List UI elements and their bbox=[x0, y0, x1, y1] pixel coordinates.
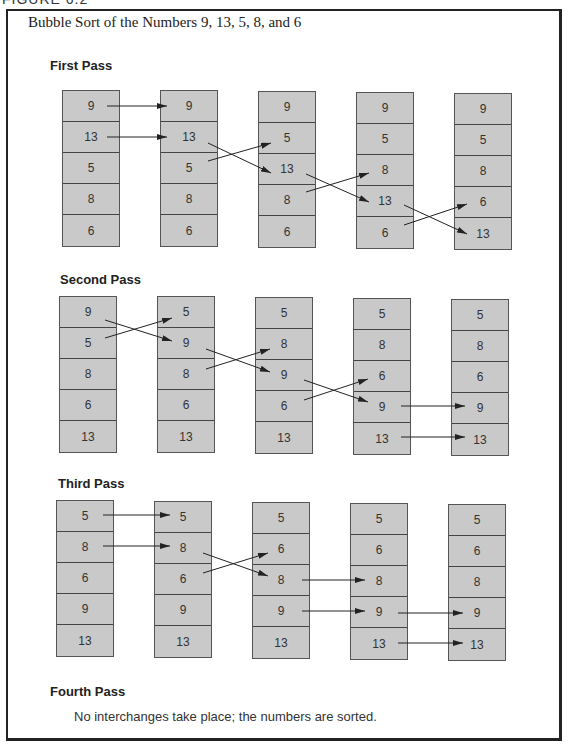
cell: 9 bbox=[253, 596, 309, 627]
pass3-col4: 5 6 8 9 13 bbox=[350, 503, 408, 660]
cell: 13 bbox=[158, 421, 214, 452]
pass-title-third: Third Pass bbox=[58, 476, 124, 491]
cell: 13 bbox=[351, 628, 407, 659]
cell: 9 bbox=[63, 91, 119, 122]
cell: 8 bbox=[161, 184, 217, 215]
figure-label: FIGURE 6.2 bbox=[2, 0, 88, 7]
cell: 13 bbox=[449, 629, 505, 660]
cell: 5 bbox=[259, 123, 315, 154]
cell: 6 bbox=[155, 564, 211, 595]
cell: 6 bbox=[256, 391, 312, 422]
pass3-col2: 5 8 6 9 13 bbox=[154, 501, 212, 658]
cell: 13 bbox=[354, 423, 410, 454]
cell: 9 bbox=[449, 598, 505, 629]
cell: 6 bbox=[449, 536, 505, 567]
cell: 6 bbox=[259, 216, 315, 247]
cell: 5 bbox=[357, 124, 413, 155]
cell: 8 bbox=[60, 359, 116, 390]
cell: 5 bbox=[57, 501, 113, 532]
pass-title-second: Second Pass bbox=[60, 272, 141, 287]
cell: 13 bbox=[57, 625, 113, 656]
cell: 9 bbox=[259, 92, 315, 123]
cell: 6 bbox=[158, 390, 214, 421]
cell: 5 bbox=[256, 298, 312, 329]
cell: 8 bbox=[449, 567, 505, 598]
cell: 13 bbox=[256, 422, 312, 453]
cell: 5 bbox=[63, 153, 119, 184]
cell: 13 bbox=[63, 122, 119, 153]
cell: 5 bbox=[60, 328, 116, 359]
cell: 8 bbox=[63, 184, 119, 215]
cell: 6 bbox=[63, 215, 119, 246]
fourth-pass-note: No interchanges take place; the numbers … bbox=[74, 709, 377, 724]
pass1-col5: 9 5 8 6 13 bbox=[454, 93, 512, 250]
cell: 6 bbox=[57, 563, 113, 594]
cell: 5 bbox=[449, 505, 505, 536]
pass1-col1: 9 13 5 8 6 bbox=[62, 90, 120, 247]
pass1-col3: 9 5 13 8 6 bbox=[258, 91, 316, 248]
cell: 9 bbox=[158, 328, 214, 359]
cell: 9 bbox=[161, 91, 217, 122]
cell: 6 bbox=[60, 390, 116, 421]
cell: 6 bbox=[354, 361, 410, 392]
cell: 9 bbox=[60, 297, 116, 328]
cell: 13 bbox=[452, 424, 508, 455]
pass1-col2: 9 13 5 8 6 bbox=[160, 90, 218, 247]
cell: 5 bbox=[158, 297, 214, 328]
cell: 9 bbox=[357, 93, 413, 124]
cell: 9 bbox=[354, 392, 410, 423]
cell: 13 bbox=[253, 627, 309, 658]
cell: 8 bbox=[357, 155, 413, 186]
cell: 13 bbox=[357, 186, 413, 217]
cell: 8 bbox=[351, 566, 407, 597]
cell: 5 bbox=[253, 503, 309, 534]
cell: 9 bbox=[256, 360, 312, 391]
cell: 9 bbox=[452, 393, 508, 424]
cell: 13 bbox=[161, 122, 217, 153]
cell: 9 bbox=[57, 594, 113, 625]
pass3-col1: 5 8 6 9 13 bbox=[56, 500, 114, 657]
cell: 13 bbox=[60, 421, 116, 452]
cell: 5 bbox=[455, 125, 511, 156]
cell: 8 bbox=[354, 330, 410, 361]
cell: 13 bbox=[155, 626, 211, 657]
cell: 9 bbox=[455, 94, 511, 125]
cell: 6 bbox=[351, 535, 407, 566]
cell: 6 bbox=[455, 187, 511, 218]
pass-title-fourth: Fourth Pass bbox=[50, 684, 125, 699]
cell: 8 bbox=[57, 532, 113, 563]
pass3-col5: 5 6 8 9 13 bbox=[448, 504, 506, 661]
cell: 8 bbox=[455, 156, 511, 187]
cell: 8 bbox=[253, 565, 309, 596]
cell: 8 bbox=[256, 329, 312, 360]
cell: 6 bbox=[452, 362, 508, 393]
cell: 5 bbox=[452, 300, 508, 331]
cell: 8 bbox=[452, 331, 508, 362]
cell: 9 bbox=[155, 595, 211, 626]
cell: 8 bbox=[158, 359, 214, 390]
pass2-col2: 5 9 8 6 13 bbox=[157, 296, 215, 453]
pass1-col4: 9 5 8 13 6 bbox=[356, 92, 414, 249]
cell: 13 bbox=[259, 154, 315, 185]
cell: 5 bbox=[351, 504, 407, 535]
figure-title: Bubble Sort of the Numbers 9, 13, 5, 8, … bbox=[28, 14, 301, 31]
cell: 6 bbox=[161, 215, 217, 246]
cell: 6 bbox=[253, 534, 309, 565]
cell: 13 bbox=[455, 218, 511, 249]
pass2-col3: 5 8 9 6 13 bbox=[255, 297, 313, 454]
pass2-col4: 5 8 6 9 13 bbox=[353, 298, 411, 455]
cell: 5 bbox=[161, 153, 217, 184]
cell: 5 bbox=[155, 502, 211, 533]
pass-title-first: First Pass bbox=[50, 58, 112, 73]
pass2-col1: 9 5 8 6 13 bbox=[59, 296, 117, 453]
cell: 8 bbox=[259, 185, 315, 216]
cell: 8 bbox=[155, 533, 211, 564]
cell: 5 bbox=[354, 299, 410, 330]
cell: 9 bbox=[351, 597, 407, 628]
pass2-col5: 5 8 6 9 13 bbox=[451, 299, 509, 456]
pass3-col3: 5 6 8 9 13 bbox=[252, 502, 310, 659]
cell: 6 bbox=[357, 217, 413, 248]
